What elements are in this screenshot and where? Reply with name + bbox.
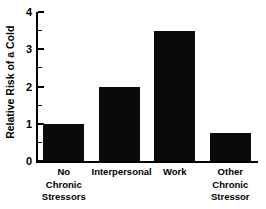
y-tick-major	[38, 11, 44, 13]
bar	[154, 31, 195, 161]
y-tick-label: 2	[26, 81, 32, 92]
y-axis-title-text: Relative Risk of a Cold	[6, 26, 17, 139]
x-axis-line	[36, 161, 258, 163]
bar	[210, 133, 251, 161]
y-tick-minor	[38, 30, 42, 31]
bar	[99, 87, 140, 162]
y-tick-label: 1	[26, 118, 32, 129]
y-tick-major	[38, 48, 44, 50]
y-tick-minor	[38, 105, 42, 106]
plot-area: 01234	[36, 12, 258, 161]
x-axis-category-label: Work	[147, 166, 203, 179]
y-tick-label: 4	[26, 7, 32, 18]
y-tick-minor	[38, 142, 42, 143]
bar-chart: Relative Risk of a Cold 01234 No Chronic…	[0, 0, 266, 209]
y-axis-title: Relative Risk of a Cold	[0, 0, 22, 165]
x-axis-category-label: Other Chronic Stressor	[203, 166, 259, 204]
x-axis-category-label: No Chronic Stressors	[36, 166, 92, 204]
y-tick-major	[38, 86, 44, 88]
bar	[43, 124, 84, 161]
x-axis-category-label: Interpersonal	[92, 166, 148, 179]
x-axis-category-labels: No Chronic StressorsInterpersonalWorkOth…	[36, 166, 258, 209]
y-tick-label: 3	[26, 44, 32, 55]
y-tick-label: 0	[26, 156, 32, 167]
y-tick-minor	[38, 67, 42, 68]
